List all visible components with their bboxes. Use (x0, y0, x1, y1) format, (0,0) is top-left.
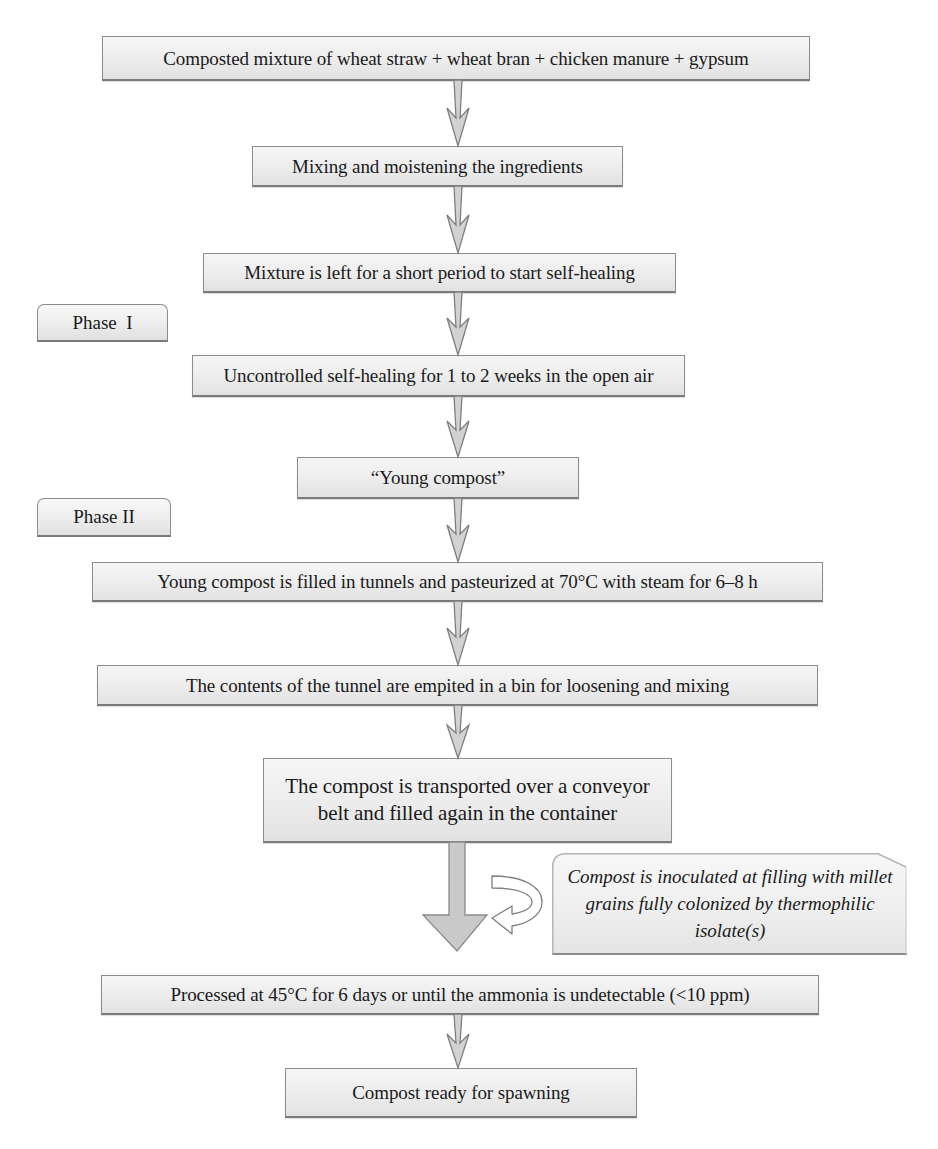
step-label: The contents of the tunnel are empited i… (186, 673, 729, 698)
step-label: Mixing and moistening the ingredients (292, 154, 583, 179)
arrow-down-icon (443, 186, 473, 253)
callout-text: Compost is inoculated at filling with mi… (563, 863, 897, 944)
step-box-short-period: Mixture is left for a short period to st… (203, 253, 676, 293)
step-box-conveyor-belt: The compost is transported over a convey… (263, 758, 672, 843)
phase-2-text: Phase II (73, 506, 135, 528)
step-box-tunnel-pasteurization: Young compost is filled in tunnels and p… (92, 562, 823, 602)
large-arrow-down-icon (420, 842, 490, 953)
phase-1-text: Phase I (72, 312, 132, 334)
step-label: Mixture is left for a short period to st… (244, 260, 635, 285)
step-label: Compost ready for spawning (352, 1080, 569, 1105)
step-box-uncontrolled-self-healing: Uncontrolled self-healing for 1 to 2 wee… (192, 355, 685, 397)
step-label: Processed at 45°C for 6 days or until th… (170, 982, 749, 1007)
step-box-tunnel-emptied: The contents of the tunnel are empited i… (97, 665, 818, 706)
arrow-down-icon (443, 292, 473, 355)
step-box-processed-45c: Processed at 45°C for 6 days or until th… (101, 975, 819, 1015)
step-label: Composted mixture of wheat straw + wheat… (163, 46, 748, 71)
arrow-down-icon (443, 705, 473, 758)
step-label: Uncontrolled self-healing for 1 to 2 wee… (223, 363, 653, 388)
step-label: The compost is transported over a convey… (284, 773, 651, 827)
inoculation-callout: Compost is inoculated at filling with mi… (552, 853, 907, 955)
arrow-down-icon (443, 396, 473, 457)
arrow-down-icon (443, 498, 473, 562)
step-label: Young compost is filled in tunnels and p… (157, 569, 757, 594)
step-label: “Young compost” (371, 465, 505, 490)
phase-1-label: Phase I (37, 304, 168, 342)
step-box-young-compost: “Young compost” (297, 457, 579, 499)
arrow-down-icon (443, 601, 473, 665)
curved-arrow-left-icon (488, 872, 550, 944)
step-box-mixing: Mixing and moistening the ingredients (252, 146, 623, 187)
step-box-compost-ready: Compost ready for spawning (285, 1068, 637, 1118)
arrow-down-icon (443, 1014, 473, 1068)
arrow-down-icon (443, 80, 473, 146)
step-box-composted-mixture: Composted mixture of wheat straw + wheat… (102, 36, 810, 81)
phase-2-label: Phase II (37, 498, 171, 537)
